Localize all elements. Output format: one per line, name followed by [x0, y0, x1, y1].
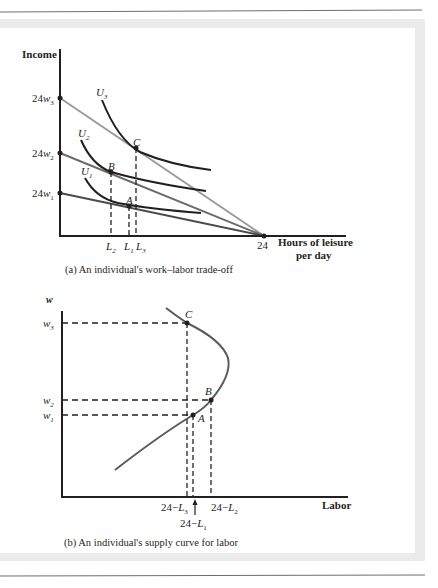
bottom-band — [0, 553, 425, 561]
bottom-rule — [0, 575, 425, 576]
y-tick-24w3: 24w3 — [32, 92, 54, 107]
point-c-label: C — [133, 136, 141, 148]
leisure-axis-label-line2: per day — [296, 249, 332, 261]
point-a-label-b: A — [197, 412, 205, 424]
curve-label-u3: U3 — [96, 86, 108, 101]
x-tick-24-minus-l1: 24−L1 — [180, 517, 207, 532]
x-tick-l3: L3 — [135, 240, 146, 255]
point-b-label-b: B — [205, 385, 212, 397]
y-tick-w1: w1 — [43, 409, 54, 424]
point-a-dot-b — [191, 413, 196, 418]
point-c-label-b: C — [185, 308, 193, 320]
indifference-curve-u1 — [85, 178, 201, 213]
panel-b: w w3 w2 w1 C B A 24−L3 24−L2 24−L1 Labor… — [43, 294, 351, 549]
x-tick-l2: L2 — [105, 240, 116, 255]
labor-axis-label: Labor — [322, 499, 351, 511]
point-b-label: B — [108, 160, 115, 172]
y-tick-24w2: 24w2 — [32, 147, 54, 162]
dot-24w1 — [58, 191, 63, 196]
top-band — [0, 19, 425, 28]
figure-frame: Income 24w3 24w2 24w1 U3 U2 U1 C B A L2 … — [0, 0, 438, 588]
wage-axis-label: w — [46, 294, 53, 305]
income-axis-label: Income — [22, 48, 57, 60]
x-tick-24: 24 — [257, 239, 269, 251]
point-a-label: A — [125, 194, 133, 206]
indifference-curve-u3 — [102, 100, 211, 170]
y-tick-w2: w2 — [43, 394, 54, 409]
x-tick-24-minus-l2: 24−L2 — [211, 501, 238, 516]
panel-a: Income 24w3 24w2 24w1 U3 U2 U1 C B A L2 … — [22, 48, 353, 276]
budget-line-w2 — [60, 153, 264, 236]
x-tick-l1: L1 — [123, 240, 134, 255]
point-c-dot-b — [185, 321, 190, 326]
right-band — [415, 19, 425, 561]
arrow-up-icon — [193, 499, 198, 505]
figure-canvas: Income 24w3 24w2 24w1 U3 U2 U1 C B A L2 … — [0, 0, 438, 588]
panel-b-caption: (b) An individual's supply curve for lab… — [64, 537, 238, 549]
y-tick-24w1: 24w1 — [32, 187, 54, 202]
y-tick-w3: w3 — [43, 317, 54, 332]
panel-a-caption: (a) An individual's work–labor trade-off — [65, 264, 233, 276]
x-tick-24-minus-l3: 24−L3 — [161, 501, 188, 516]
top-rule — [0, 10, 422, 12]
curve-label-u2: U2 — [78, 127, 90, 142]
curve-label-u1: U1 — [81, 165, 92, 180]
dot-24 — [262, 234, 267, 239]
leisure-axis-label-line1: Hours of leisure — [278, 236, 353, 248]
dot-24w2 — [58, 151, 63, 156]
dot-24w3 — [58, 96, 63, 101]
point-b-dot-b — [209, 398, 214, 403]
